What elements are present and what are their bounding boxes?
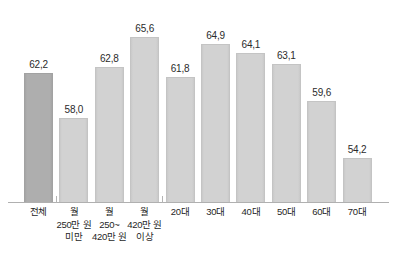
x-axis-line	[8, 202, 389, 203]
bar-column[interactable]	[272, 0, 301, 203]
bar[interactable]	[201, 44, 230, 203]
bar-slot: 62,2	[21, 0, 56, 203]
axis-group-divider-tick	[162, 196, 163, 203]
bar-value-label: 54,2	[330, 144, 385, 155]
bar-slot: 63,1	[269, 0, 304, 203]
bar[interactable]	[236, 53, 265, 203]
bar-column[interactable]	[343, 0, 372, 203]
x-axis-tick-label: 70대	[329, 206, 385, 219]
axis-group-divider-tick	[56, 196, 57, 203]
plot-area: 62,258,062,865,661,864,964,163,159,654,2	[0, 0, 397, 203]
bar[interactable]	[59, 118, 88, 203]
bar-slot: 59,6	[304, 0, 339, 203]
bar-slot: 58,0	[56, 0, 91, 203]
bar-column[interactable]	[307, 0, 336, 203]
bar-chart: 62,258,062,865,661,864,964,163,159,654,2…	[0, 0, 397, 258]
x-axis-labels: 전체월 250만 원 미만월 250~ 420만 원월 420만 원 이상20대…	[0, 206, 397, 258]
bar[interactable]	[166, 77, 195, 203]
bar-column[interactable]	[236, 0, 265, 203]
bar-slot: 65,6	[127, 0, 162, 203]
bar-column[interactable]	[59, 0, 88, 203]
bar[interactable]	[130, 37, 159, 203]
bar-column[interactable]	[24, 0, 53, 203]
bar-slot: 64,1	[233, 0, 268, 203]
bar-slot: 54,2	[340, 0, 375, 203]
bar[interactable]	[24, 73, 53, 203]
bar[interactable]	[95, 67, 124, 203]
bar[interactable]	[343, 158, 372, 203]
bar-slot: 64,9	[198, 0, 233, 203]
bar[interactable]	[272, 64, 301, 203]
